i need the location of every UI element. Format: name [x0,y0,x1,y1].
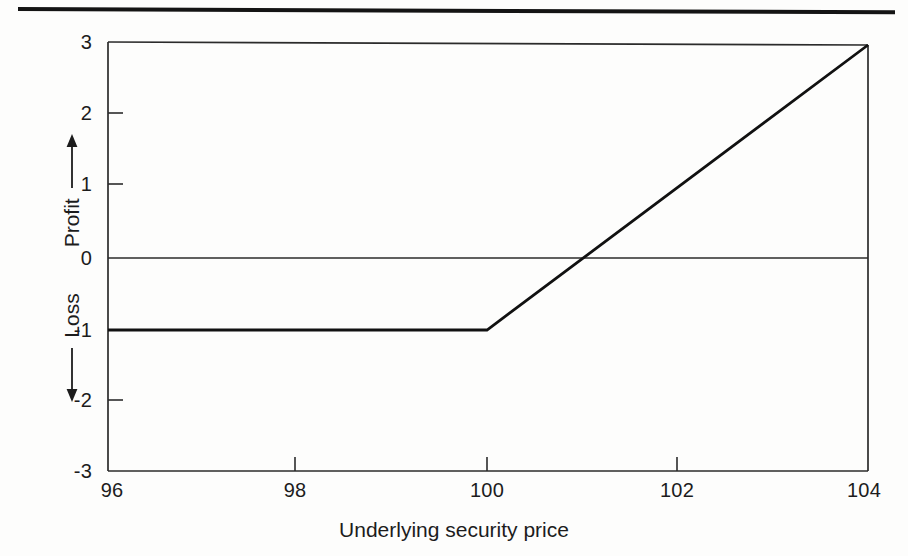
x-axis-title: Underlying security price [0,518,908,542]
x-tick-marks [295,457,677,471]
payoff-chart-figure: 3 2 1 0 -1 -2 -3 96 98 100 102 104 Under… [0,0,908,556]
x-tick-label-96: 96 [101,480,124,500]
y-tick-label-neg3: -3 [44,461,92,481]
x-tick-label-104: 104 [847,480,881,500]
top-spine [108,42,868,45]
down-arrow-icon [65,348,79,402]
axis-frame [108,42,868,471]
y-axis-title-loss: Loss [60,293,84,337]
y-axis-title: Loss Profit [57,118,87,418]
y-axis-title-profit: Profit [60,198,84,247]
x-tick-label-100: 100 [470,480,504,500]
chart-plot-area [0,0,908,556]
up-arrow-icon [65,134,79,188]
y-tick-marks [108,113,123,400]
payoff-line [108,45,868,330]
y-tick-label-3: 3 [52,32,92,52]
x-tick-label-102: 102 [660,480,694,500]
x-tick-label-98: 98 [284,480,307,500]
